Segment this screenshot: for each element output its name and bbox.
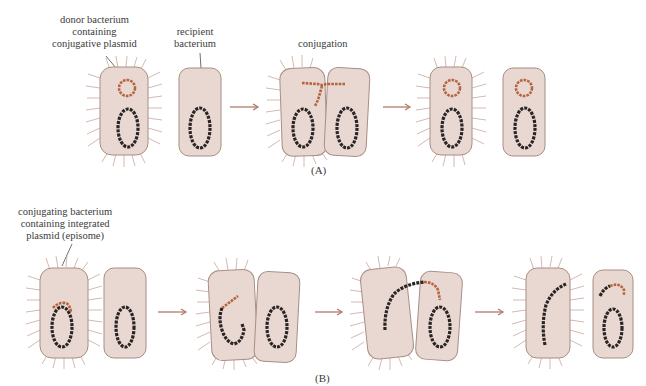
recipient-bacterium-b-after	[593, 270, 633, 358]
conjugation-diagram: .cell { fill:#e8d8d1; stroke:#a88e84; st…	[0, 0, 646, 386]
cell-body	[179, 68, 221, 156]
cell-body	[430, 67, 472, 155]
cell-body	[526, 268, 570, 358]
recipient-bacterium-b	[104, 268, 146, 358]
arrow-icon	[383, 104, 410, 110]
conjugating-pair-b2	[196, 258, 300, 370]
conjugating-pair-b3	[350, 256, 463, 370]
conjugating-pair	[266, 55, 370, 167]
cell-body	[104, 268, 146, 358]
donor-bacterium	[86, 56, 162, 167]
donor-cell-body	[208, 269, 259, 361]
recipient-bacterium	[179, 68, 221, 156]
arrow-icon	[158, 309, 186, 315]
arrow-icon	[475, 309, 503, 315]
recipient-cell-body	[415, 271, 463, 362]
hfr-bacterium-after	[512, 256, 584, 369]
conjugating-leader-line	[62, 244, 72, 266]
cell-body	[593, 270, 633, 358]
donor-cell-body	[279, 67, 327, 157]
hfr-bacterium	[26, 256, 102, 369]
arrow-icon	[315, 309, 342, 315]
recipient-bacterium-after	[503, 68, 545, 156]
recipient-cell-body	[254, 271, 301, 363]
cell-body	[40, 268, 88, 358]
recipient-cell-body	[324, 67, 371, 157]
donor-bacterium-after	[416, 56, 486, 167]
arrow-icon	[230, 104, 258, 110]
recipient-leader-line	[200, 53, 201, 68]
